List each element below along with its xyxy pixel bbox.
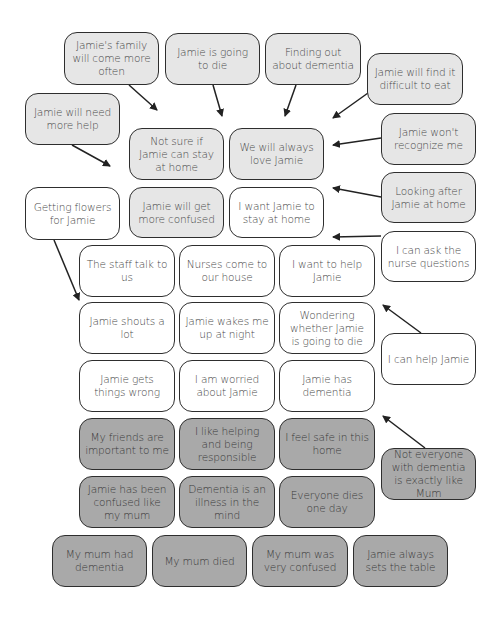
- arrow-wont-recognize-to-always-love: [333, 138, 381, 145]
- node-has-dementia: Jamie has dementia: [279, 360, 375, 412]
- node-illness-mind: Dementia is an illness in the mind: [179, 476, 275, 528]
- arrow-ask-nurse-to-want-stay-home: [333, 236, 381, 237]
- node-want-to-help: I want to help Jamie: [279, 245, 375, 297]
- node-like-helping: I like helping and being responsible: [179, 418, 275, 470]
- arrow-finding-out-to-always-love: [285, 85, 296, 116]
- arrow-need-more-help-to-not-sure-stay: [72, 145, 110, 166]
- node-wont-recognize: Jamie won't recognize me: [381, 113, 476, 165]
- node-staff-talk: The staff talk to us: [79, 245, 175, 297]
- node-not-sure-stay: Not sure if Jamie can stay at home: [129, 128, 224, 180]
- node-wakes-me: Jamie wakes me up at night: [179, 302, 275, 354]
- arrow-family-more-often-to-not-sure-stay: [129, 85, 157, 110]
- node-wondering-die: Wondering whether Jamie is going to die: [279, 302, 375, 354]
- arrow-not-everyone-to-has-dementia: [383, 416, 425, 448]
- node-more-confused: Jamie will get more confused: [129, 187, 224, 238]
- arrow-getting-flowers-to-shouts: [54, 240, 79, 300]
- node-not-everyone: Not everyone with dementia is exactly li…: [381, 448, 476, 500]
- node-need-more-help: Jamie will need more help: [25, 93, 120, 145]
- node-sets-table: Jamie always sets the table: [353, 535, 448, 587]
- node-difficult-to-eat: Jamie will find it difficult to eat: [367, 53, 463, 105]
- node-feel-safe: I feel safe in this home: [279, 418, 375, 470]
- node-things-wrong: Jamie gets things wrong: [79, 360, 175, 412]
- arrow-looking-after-to-always-love: [333, 188, 381, 197]
- node-confused-like-mum: Jamie has been confused like my mum: [79, 476, 175, 528]
- node-friends-important: My friends are important to me: [79, 418, 175, 470]
- node-everyone-dies: Everyone dies one day: [279, 476, 375, 528]
- node-shouts: Jamie shouts a lot: [79, 302, 175, 354]
- node-always-love: We will always love Jamie: [229, 128, 324, 180]
- node-want-stay-home: I want Jamie to stay at home: [229, 187, 324, 238]
- node-finding-out: Finding out about dementia: [265, 33, 361, 85]
- arrow-can-help-to-wondering-die: [383, 305, 421, 333]
- node-ask-nurse: I can ask the nurse questions: [381, 231, 476, 282]
- node-worried: I am worried about Jamie: [179, 360, 275, 412]
- node-getting-flowers: Getting flowers for Jamie: [25, 187, 120, 240]
- arrow-difficult-to-eat-to-always-love: [333, 93, 368, 118]
- node-can-help: I can help Jamie: [381, 333, 476, 385]
- node-nurses-come: Nurses come to our house: [179, 245, 275, 297]
- arrow-going-to-die-to-not-sure-stay: [213, 85, 222, 116]
- node-mum-died: My mum died: [152, 535, 247, 587]
- node-looking-after: Looking after Jamie at home: [381, 172, 476, 223]
- node-going-to-die: Jamie is going to die: [165, 33, 260, 85]
- node-mum-confused: My mum was very confused: [252, 535, 348, 587]
- node-family-more-often: Jamie's family will come more often: [64, 32, 159, 85]
- concept-diagram: Jamie's family will come more often Jami…: [0, 0, 500, 617]
- node-mum-had-dementia: My mum had dementia: [52, 535, 147, 587]
